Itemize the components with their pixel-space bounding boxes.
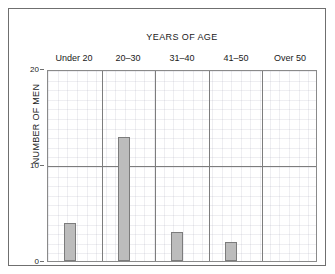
y-tick-label-0: 0 (13, 258, 39, 266)
y-tick-label-20: 20 (13, 66, 39, 74)
category-axis-labels: Under 20 20–30 31–40 41–50 Over 50 (47, 52, 317, 65)
bar-series (48, 71, 316, 261)
bar-41-50 (225, 242, 237, 261)
bar-31-40 (171, 232, 183, 261)
chart-frame: YEARS OF AGE Under 20 20–30 31–40 41–50 … (8, 8, 326, 266)
bar-20-30 (118, 137, 130, 261)
plot-area (47, 70, 317, 262)
category-label-over-50: Over 50 (263, 52, 317, 65)
y-tick-mark-10 (40, 165, 44, 166)
y-tick-label-10: 10 (13, 162, 39, 170)
category-label-41-50: 41–50 (209, 52, 263, 65)
category-label-31-40: 31–40 (155, 52, 209, 65)
category-label-under-20: Under 20 (47, 52, 101, 65)
y-tick-mark-0 (40, 261, 44, 262)
category-label-20-30: 20–30 (101, 52, 155, 65)
chart-title: YEARS OF AGE (47, 32, 317, 42)
y-tick-mark-20 (40, 69, 44, 70)
figure: YEARS OF AGE Under 20 20–30 31–40 41–50 … (0, 0, 335, 274)
bar-under-20 (64, 223, 76, 261)
